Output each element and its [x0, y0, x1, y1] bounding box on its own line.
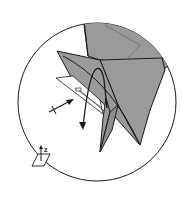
origami-diagram: z [0, 0, 182, 197]
axis-label-z: z [44, 146, 48, 153]
small-tab [76, 88, 81, 91]
